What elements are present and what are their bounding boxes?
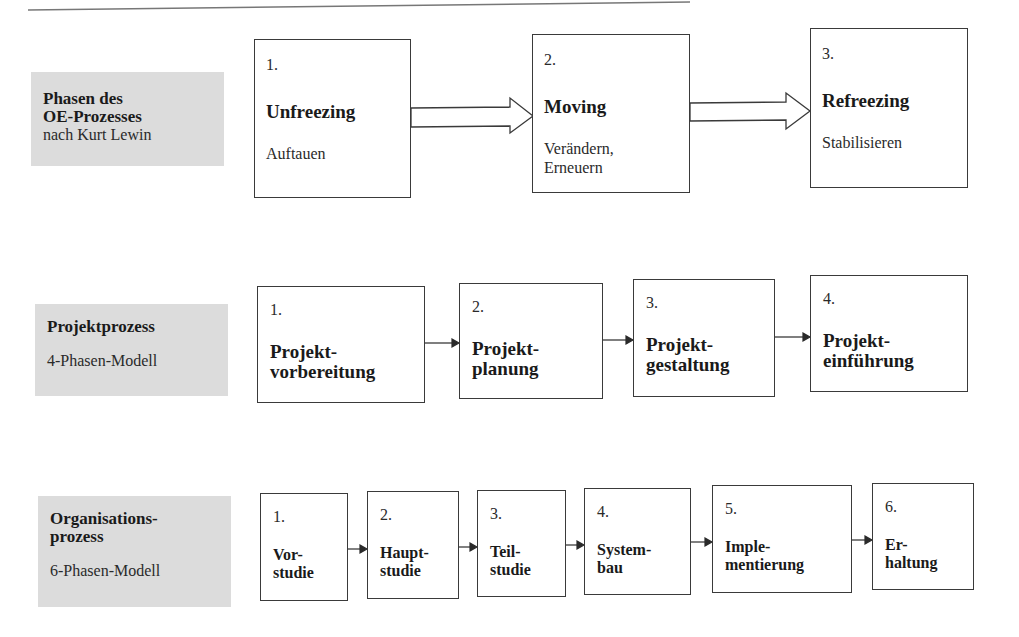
phase-title-line: Er- bbox=[885, 536, 937, 554]
phase-number: 4. bbox=[597, 503, 609, 521]
phase-box-hauptstudie: 2. Haupt- studie bbox=[367, 491, 459, 599]
phase-box-refreezing: 3. Refreezing Stabilisieren bbox=[810, 28, 968, 188]
phase-title-line: Haupt- bbox=[380, 544, 429, 562]
phase-title-line: Imple- bbox=[725, 538, 804, 556]
phase-number: 2. bbox=[380, 506, 392, 524]
arrowhead-icon bbox=[865, 536, 872, 544]
phase-number: 3. bbox=[646, 294, 658, 312]
phase-number: 1. bbox=[270, 301, 282, 319]
row-label-subtitle: 4-Phasen-Modell bbox=[47, 352, 228, 370]
phase-title-line: gestaltung bbox=[646, 355, 729, 375]
phase-title-line: einführung bbox=[823, 351, 914, 371]
phase-title-line: studie bbox=[490, 561, 531, 579]
arrowhead-icon bbox=[452, 339, 459, 347]
phase-box-systembau: 4. System- bau bbox=[584, 488, 691, 595]
phase-number: 5. bbox=[725, 500, 737, 518]
phase-subtitle: Verändern, bbox=[544, 139, 614, 158]
phase-box-projektgestaltung: 3. Projekt- gestaltung bbox=[633, 279, 775, 397]
phase-box-moving: 2. Moving Verändern, Erneuern bbox=[532, 34, 690, 193]
phase-title-line: System- bbox=[597, 541, 651, 559]
phase-number: 1. bbox=[266, 56, 278, 74]
phase-number: 2. bbox=[544, 51, 556, 69]
row-label-title: Projektprozess bbox=[47, 318, 228, 336]
row-label-organisationsprozess: Organisations- prozess 6-Phasen-Modell bbox=[38, 496, 231, 607]
phase-number: 3. bbox=[490, 505, 502, 523]
phase-box-vorstudie: 1. Vor- studie bbox=[260, 493, 348, 601]
phase-title-line: Projekt- bbox=[823, 331, 914, 351]
arrowhead-icon bbox=[705, 538, 712, 546]
phase-number: 2. bbox=[472, 298, 484, 316]
top-rule bbox=[28, 2, 690, 10]
arrowhead-icon bbox=[470, 543, 477, 551]
phase-title-line: haltung bbox=[885, 554, 937, 572]
phase-number: 4. bbox=[823, 290, 835, 308]
row-label-title: OE-Prozesses bbox=[43, 108, 224, 126]
phase-box-projektplanung: 2. Projekt- planung bbox=[459, 283, 603, 399]
phase-title-line: Vor- bbox=[273, 546, 314, 564]
phase-title-line: Projekt- bbox=[646, 335, 729, 355]
row-label-title: Organisations- bbox=[50, 510, 231, 528]
phase-box-implementierung: 5. Imple- mentierung bbox=[712, 485, 852, 593]
phase-subtitle: Stabilisieren bbox=[822, 133, 902, 152]
phase-number: 1. bbox=[273, 508, 285, 526]
phase-title-line: bau bbox=[597, 559, 651, 577]
row-label-subtitle: nach Kurt Lewin bbox=[43, 126, 224, 144]
row-label-projektprozess: Projektprozess 4-Phasen-Modell bbox=[35, 304, 228, 396]
block-arrow-icon bbox=[690, 93, 810, 129]
phase-title-line: studie bbox=[380, 562, 429, 580]
phase-box-unfreezing: 1. Unfreezing Auftauen bbox=[254, 39, 411, 198]
block-arrow-icon bbox=[411, 98, 533, 133]
arrowhead-icon bbox=[626, 336, 633, 344]
phase-title-line: planung bbox=[472, 359, 539, 379]
arrowhead-icon bbox=[360, 545, 367, 553]
phase-title-line: Teil- bbox=[490, 543, 531, 561]
row-label-lewin: Phasen des OE-Prozesses nach Kurt Lewin bbox=[31, 72, 224, 166]
phase-title-line: Projekt- bbox=[472, 339, 539, 359]
phase-title: Unfreezing bbox=[266, 101, 355, 123]
phase-title-line: studie bbox=[273, 564, 314, 582]
phase-title-line: mentierung bbox=[725, 556, 804, 574]
phase-box-teilstudie: 3. Teil- studie bbox=[477, 490, 566, 597]
phase-box-projektvorbereitung: 1. Projekt- vorbereitung bbox=[257, 286, 425, 403]
phase-number: 3. bbox=[822, 45, 834, 63]
phase-subtitle: Erneuern bbox=[544, 158, 603, 177]
phase-title-line: vorbereitung bbox=[270, 362, 375, 382]
arrowhead-icon bbox=[803, 333, 810, 341]
row-label-title: prozess bbox=[50, 528, 231, 546]
phase-title: Refreezing bbox=[822, 90, 909, 112]
row-label-subtitle: 6-Phasen-Modell bbox=[50, 562, 231, 580]
phase-number: 6. bbox=[885, 498, 897, 516]
phase-title-line: Projekt- bbox=[270, 342, 375, 362]
row-label-title: Phasen des bbox=[43, 90, 224, 108]
phase-box-projekteinfuehrung: 4. Projekt- einführung bbox=[810, 275, 968, 392]
arrowhead-icon bbox=[577, 541, 584, 549]
phase-subtitle: Auftauen bbox=[266, 144, 326, 163]
phase-box-erhaltung: 6. Er- haltung bbox=[872, 483, 974, 590]
phase-title: Moving bbox=[544, 96, 606, 118]
